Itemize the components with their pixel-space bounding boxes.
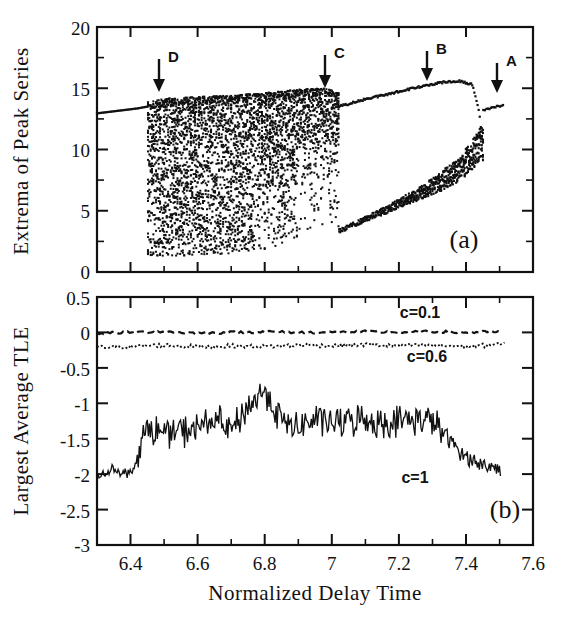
panel-b-xtick-7p2: 7.2 [387,553,411,574]
panel-b-ylabel: Largest Average TLE [9,326,33,515]
panel-b-xtick-7: 7 [327,553,337,574]
annotation-arrow-b: B [421,40,447,81]
panel-a-ytick-10: 10 [71,140,90,161]
panel-a-ylabel: Extrema of Peak Series [9,47,33,255]
panel-b-xtick-6p6: 6.6 [186,553,210,574]
panel-b-xlabel: Normalized Delay Time [208,581,421,605]
series-label-c-0-6: c=0.6 [407,348,448,365]
panel-a-ytick-15: 15 [71,79,90,100]
panel-b-xtick-7p6: 7.6 [521,553,545,574]
panel-b-ytick-0: 0 [81,323,91,344]
panel-a-data-points [96,79,504,256]
series-label-c-1: c=1 [401,469,428,486]
panel-b: Largest Average TLE 0.5 0 -0.5 -1 -1.5 -… [9,288,545,605]
panel-a-label: (a) [450,225,479,254]
annotation-arrow-c: C [319,44,345,88]
panel-b-xtick-6p4: 6.4 [119,553,143,574]
panel-b-ytick-m2: -2 [74,465,90,486]
annotation-label-b: B [436,40,447,57]
panel-b-xtick-6p8: 6.8 [253,553,277,574]
panel-b-ytick-m1: -1 [74,394,90,415]
annotation-arrow-a: A [491,52,517,93]
panel-b-ytick-m3: -3 [74,535,90,556]
panel-b-label: (b) [490,495,520,524]
panel-b-ytick-m1p5: -1.5 [60,430,90,451]
series-curve-c-1 [97,384,500,480]
series-curve-c-0-1 [97,331,502,335]
panel-a-ytick-5: 5 [81,201,91,222]
annotation-label-d: D [168,48,179,65]
panel-a-ytick-0: 0 [81,262,91,283]
panel-a-ytick-20: 20 [71,18,90,39]
panel-b-xtick-7p4: 7.4 [454,553,478,574]
figure-svg: Extrema of Peak Series 20 15 10 5 0 [0,0,567,626]
annotation-arrow-d: D [153,48,179,92]
annotation-label-a: A [506,52,517,69]
annotation-label-c: C [334,44,345,61]
panel-b-ytick-0p5: 0.5 [66,288,90,309]
series-label-c-0-1: c=0.1 [400,304,441,321]
figure-container: Extrema of Peak Series 20 15 10 5 0 [0,0,567,626]
panel-b-ytick-m0p5: -0.5 [60,359,90,380]
panel-b-ytick-m2p5: -2.5 [60,501,90,522]
panel-a: Extrema of Peak Series 20 15 10 5 0 [9,18,533,283]
